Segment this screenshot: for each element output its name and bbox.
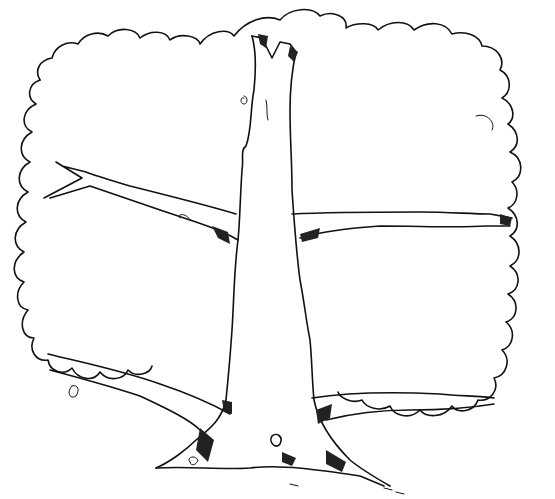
- trunk-knot: [241, 96, 247, 104]
- upper-right-branch: [292, 212, 512, 238]
- tree-illustration: [0, 0, 555, 499]
- tree-drawing: [0, 0, 555, 499]
- trunk-left-edge: [156, 36, 255, 468]
- canopy-inner-curve-right: [476, 115, 493, 130]
- lower-left-branch-hatch: [222, 400, 232, 414]
- canopy-outline-left: [14, 80, 152, 379]
- trunk-right-edge: [290, 52, 390, 486]
- root-hatch-center: [282, 452, 296, 466]
- upper-left-branch: [44, 162, 238, 240]
- trunk-bark-line: [266, 100, 268, 120]
- root-knot-left: [189, 457, 198, 465]
- lower-left-leaf: [69, 386, 78, 397]
- trunk-top-hatch-right: [288, 46, 298, 62]
- root-hatch-left: [196, 428, 214, 462]
- root-knot-center: [271, 434, 281, 446]
- upper-right-branch-tip-hatch: [500, 214, 512, 226]
- root-base: [156, 467, 384, 486]
- upper-left-branch-hatch: [212, 226, 230, 244]
- ground-dashes: [290, 484, 404, 494]
- lower-right-branch-hatch: [316, 404, 332, 424]
- upper-right-branch-hatch: [300, 228, 320, 242]
- lower-left-branch: [48, 354, 230, 430]
